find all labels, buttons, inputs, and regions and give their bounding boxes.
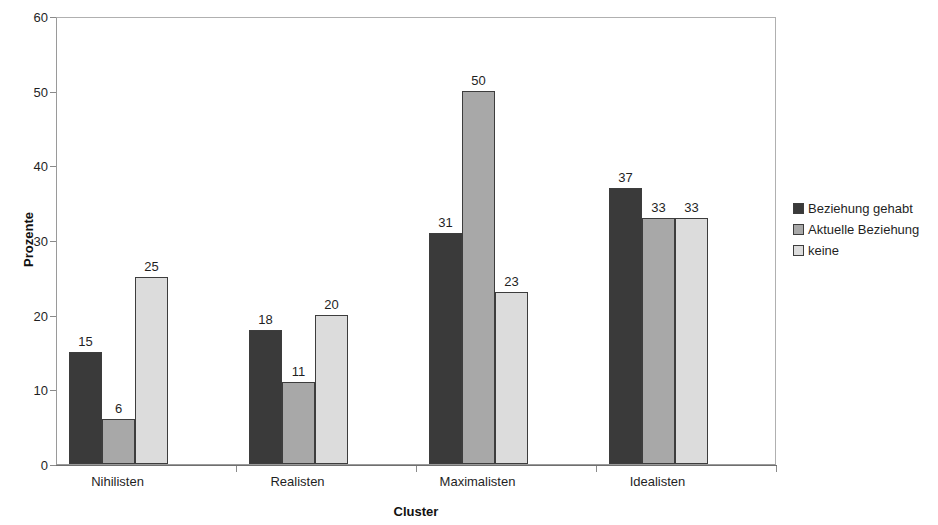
bar-value-label: 37	[618, 170, 632, 185]
legend-item: Aktuelle Beziehung	[793, 219, 938, 240]
x-axis-category-label: Maximalisten	[440, 474, 516, 489]
legend-item: Beziehung gehabt	[793, 198, 938, 219]
legend-item-label: keine	[808, 243, 839, 258]
legend-swatch-icon	[793, 203, 804, 214]
y-axis-tick-label: 0	[8, 458, 48, 473]
bar	[69, 352, 102, 464]
bar	[282, 382, 315, 464]
y-axis-tick-label: 30	[8, 234, 48, 249]
bar-value-label: 15	[78, 334, 92, 349]
bar-value-label: 33	[651, 200, 665, 215]
x-axis-title: Cluster	[56, 504, 776, 519]
bar-value-label: 25	[144, 259, 158, 274]
plot-area: 15625181120315023373333	[56, 17, 776, 465]
legend-item-label: Aktuelle Beziehung	[808, 222, 919, 237]
bar-value-label: 23	[504, 274, 518, 289]
x-axis-tick-mark	[416, 466, 417, 472]
bar	[315, 315, 348, 464]
y-axis-tick-label: 60	[8, 10, 48, 25]
legend-swatch-icon	[793, 224, 804, 235]
bar-value-label: 6	[115, 401, 122, 416]
bar	[102, 419, 135, 464]
bar-value-label: 31	[438, 215, 452, 230]
x-axis-tick-mark	[776, 466, 777, 472]
bar-chart-figure: Prozente 0102030405060 15625181120315023…	[0, 0, 938, 525]
y-axis-tick-label: 50	[8, 84, 48, 99]
bars-container: 15625181120315023373333	[57, 18, 775, 464]
x-axis-tick-mark	[596, 466, 597, 472]
bar	[609, 188, 642, 464]
y-axis-tick-label: 10	[8, 383, 48, 398]
bar-value-label: 33	[684, 200, 698, 215]
bar	[495, 292, 528, 464]
y-axis-tick-label: 40	[8, 159, 48, 174]
x-axis-category-label: Nihilisten	[91, 474, 144, 489]
bar	[462, 91, 495, 464]
x-axis-category-label: Idealisten	[630, 474, 686, 489]
legend: Beziehung gehabtAktuelle Beziehungkeine	[793, 198, 938, 261]
bar	[642, 218, 675, 464]
bar-value-label: 18	[258, 312, 272, 327]
bar	[249, 330, 282, 464]
bar-value-label: 20	[324, 297, 338, 312]
bar	[429, 233, 462, 464]
x-axis-tick-mark	[236, 466, 237, 472]
legend-item: keine	[793, 240, 938, 261]
y-axis-tick-label: 20	[8, 308, 48, 323]
bar	[135, 277, 168, 464]
x-axis-category-label: Realisten	[270, 474, 324, 489]
legend-swatch-icon	[793, 245, 804, 256]
bar	[675, 218, 708, 464]
bar-value-label: 11	[292, 364, 306, 379]
legend-item-label: Beziehung gehabt	[808, 201, 913, 216]
bar-value-label: 50	[471, 73, 485, 88]
